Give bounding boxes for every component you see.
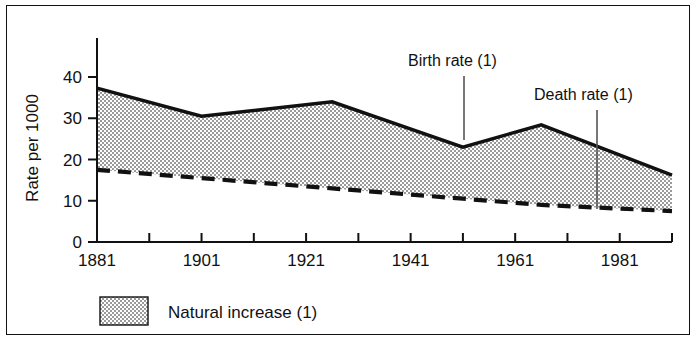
y-axis-ticks	[88, 77, 97, 242]
birth-rate-annotation-label: Birth rate (1)	[408, 52, 497, 69]
x-tick-label: 1901	[183, 251, 221, 270]
birth-rate-annotation: Birth rate (1)	[408, 52, 497, 140]
y-axis-tick-labels: 010203040	[63, 68, 82, 252]
line-area-chart: 010203040 188119011921194119611981 Rate …	[0, 0, 697, 341]
death-rate-annotation-label: Death rate (1)	[534, 86, 633, 103]
legend-label-natural-increase: Natural increase (1)	[168, 303, 317, 322]
legend: Natural increase (1)	[100, 297, 317, 325]
y-axis-title: Rate per 1000	[23, 94, 42, 202]
y-tick-label: 0	[73, 233, 82, 252]
x-tick-label: 1981	[601, 251, 639, 270]
y-tick-label: 10	[63, 192, 82, 211]
x-tick-label: 1921	[287, 251, 325, 270]
x-axis-ticks	[97, 233, 672, 242]
x-axis-tick-labels: 188119011921194119611981	[78, 251, 639, 270]
y-tick-label: 40	[63, 68, 82, 87]
x-tick-label: 1961	[496, 251, 534, 270]
x-tick-label: 1881	[78, 251, 116, 270]
x-tick-label: 1941	[392, 251, 430, 270]
y-tick-label: 20	[63, 151, 82, 170]
natural-increase-band	[97, 88, 672, 211]
figure-container: 010203040 188119011921194119611981 Rate …	[0, 0, 697, 341]
y-tick-label: 30	[63, 109, 82, 128]
legend-swatch-natural-increase	[100, 297, 148, 325]
